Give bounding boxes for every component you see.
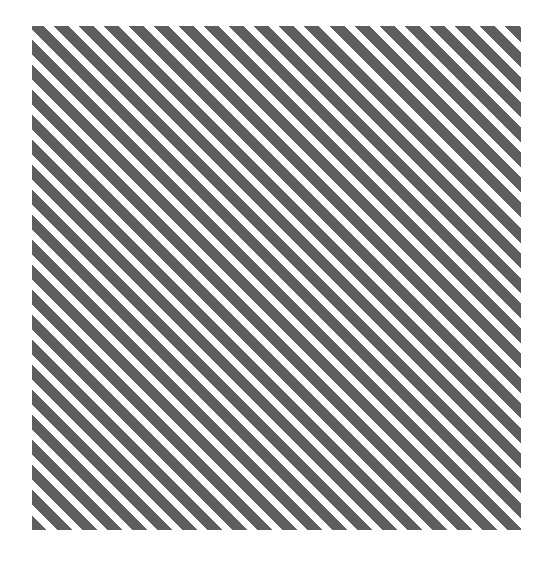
stripe-pattern-fill (32, 26, 521, 530)
striped-square (32, 26, 521, 530)
page-canvas (0, 0, 555, 562)
